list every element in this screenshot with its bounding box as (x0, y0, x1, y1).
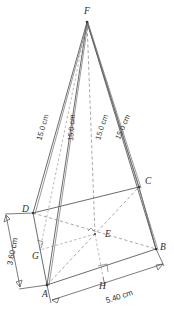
pyramid-diagram: F D C A B E G H 15.0 cm 15.0 cm 15.0 cm … (0, 0, 174, 318)
vertex-dot-F (86, 21, 89, 24)
vertex-labels-group: F D C A B E G H (21, 6, 166, 299)
hidden-edge-E-H (95, 234, 103, 277)
vertex-label-A: A (41, 289, 48, 299)
edge-label-FD: 15.0 cm (35, 113, 51, 141)
vertex-label-E: E (104, 229, 111, 239)
dimension-arrow-AB-right (156, 264, 163, 270)
hidden-edge-E-G (40, 234, 95, 250)
dimension-lines-group (4, 213, 164, 303)
edge-label-FA: 15.0 cm (66, 114, 77, 141)
edge-A-B (47, 249, 156, 285)
dimension-label-AB: 5.40 cm (105, 288, 135, 305)
vertex-dot-D (32, 212, 34, 214)
hidden-edge-F-G (40, 22, 87, 250)
dimension-labels-group: 3.60 cm 5.40 cm (5, 237, 134, 306)
solid-edges-group (33, 22, 158, 285)
vertex-dot-E (94, 233, 96, 235)
vertex-label-G: G (32, 251, 39, 261)
edge-D-C (33, 187, 139, 213)
edge-F-A-trace (49, 23, 88, 285)
vertex-label-C: C (145, 176, 152, 186)
vertex-dots-group (32, 21, 158, 287)
hidden-edge-A-C (47, 187, 139, 285)
vertex-dot-B (155, 248, 158, 251)
dimension-arrow-AB-left (52, 298, 59, 303)
vertex-dot-A (46, 284, 49, 287)
vertex-label-H: H (98, 281, 107, 291)
edge-label-FC: 15.0 cm (93, 113, 110, 141)
edge-F-A (47, 22, 87, 285)
vertex-label-F: F (83, 6, 90, 16)
right-angle-markers-group (37, 228, 108, 272)
edge-length-labels-group: 15.0 cm 15.0 cm 15.0 cm 15.0 cm (35, 113, 133, 141)
vertex-label-D: D (21, 204, 29, 214)
diagram-canvas: F D C A B E G H 15.0 cm 15.0 cm 15.0 cm … (0, 0, 174, 318)
vertex-label-B: B (160, 242, 166, 252)
vertex-dot-C (138, 186, 140, 188)
hidden-edge-F-E-altitude (87, 22, 95, 234)
dimension-label-AD: 3.60 cm (5, 237, 19, 266)
edge-D-A (33, 213, 47, 285)
